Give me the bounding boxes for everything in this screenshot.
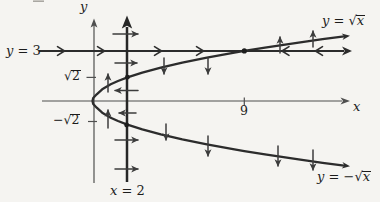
- x-axis: [42, 98, 342, 106]
- point-2-sqrt2: [125, 75, 130, 80]
- line-x2-arrowhead-icon: [122, 16, 132, 29]
- math-figure: y x y = 3 x = 2 9 √2 −√2 y = √x y = −√x: [0, 0, 380, 202]
- point-2-neg-sqrt2: [124, 123, 129, 128]
- y-tick-label-sqrt2: √2: [64, 69, 81, 82]
- y-tick-label-neg-sqrt2: −√2: [53, 113, 80, 126]
- x-tick-label-9: 9: [240, 104, 248, 117]
- label-curve-lower: y = −√x: [317, 170, 371, 184]
- label-curve-upper: y = √x: [322, 14, 365, 28]
- label-line-x2: x = 2: [110, 184, 145, 198]
- y-axis: [87, 25, 98, 183]
- intersection-points: [124, 48, 247, 127]
- y-axis-label: y: [80, 0, 87, 14]
- line-x2: [122, 16, 132, 183]
- point-9-3: [242, 48, 247, 53]
- line-y3: [39, 46, 352, 55]
- label-line-y3: y = 3: [6, 44, 41, 58]
- x-axis-label: x: [353, 100, 360, 114]
